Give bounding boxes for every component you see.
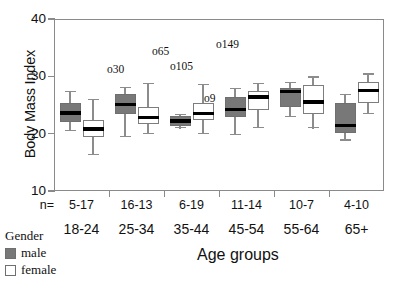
whisker-cap-upper [120, 87, 131, 88]
box-plot-male-65+ [335, 94, 356, 141]
legend-label-female: female [21, 262, 56, 278]
box-iqr [335, 103, 356, 133]
box-iqr [358, 82, 379, 103]
y-tick-label: 40 [12, 11, 46, 26]
n-value-25-34: 16-13 [107, 198, 167, 212]
box-plot-male-25-34 [115, 87, 136, 137]
category-label-55-64: 55-64 [272, 221, 332, 237]
whisker-cap-lower [88, 154, 99, 155]
box-plot-female-55-64 [303, 76, 324, 128]
whisker-cap-lower [230, 134, 241, 135]
category-label-18-24: 18-24 [52, 221, 112, 237]
category-label-35-44: 35-44 [162, 221, 222, 237]
whisker-cap-upper [253, 83, 264, 84]
median-line [83, 127, 104, 130]
y-tick-label: 20 [12, 126, 46, 141]
outlier-label-o149: o149 [216, 38, 239, 50]
whisker-cap-lower [308, 127, 319, 128]
median-line [115, 103, 136, 106]
y-tick-mark [48, 190, 55, 191]
whisker-cap-lower [65, 130, 76, 131]
median-line [60, 111, 81, 114]
y-tick-label: 10 [12, 183, 46, 198]
box-plot-female-25-34 [138, 83, 159, 134]
n-row-header: n= [4, 198, 54, 212]
outlier-label-o30: o30 [107, 63, 124, 75]
legend-swatch-male-icon [5, 248, 16, 259]
n-value-18-24: 5-17 [52, 198, 112, 212]
whisker-cap-lower [143, 133, 154, 134]
whisker-cap-upper [230, 88, 241, 89]
y-tick-mark [48, 18, 55, 19]
whisker-cap-lower [175, 127, 186, 128]
whisker-cap-upper [285, 82, 296, 83]
whisker-cap-upper [308, 76, 319, 77]
whisker-cap-upper [65, 91, 76, 92]
median-line [138, 116, 159, 119]
median-line [225, 108, 246, 111]
x-axis-title: Age groups [197, 246, 279, 264]
n-value-55-64: 10-7 [272, 198, 332, 212]
n-value-65+: 4-10 [327, 198, 387, 212]
outlier-label-o105: o105 [170, 60, 193, 72]
whisker-cap-lower [285, 116, 296, 117]
median-line [335, 124, 356, 127]
x-tick-mark [329, 191, 330, 197]
x-tick-mark [109, 191, 110, 197]
legend-swatch-female-icon [5, 265, 16, 276]
category-label-25-34: 25-34 [107, 221, 167, 237]
x-tick-mark [274, 191, 275, 197]
y-tick-mark [48, 133, 55, 134]
legend-item-male: male [5, 245, 56, 261]
whisker-cap-lower [198, 133, 209, 134]
box-iqr [248, 91, 269, 110]
whisker-cap-upper [198, 84, 209, 85]
whisker-cap-upper [340, 94, 351, 95]
whisker-cap-lower [340, 139, 351, 140]
legend-label-male: male [21, 245, 46, 261]
median-line [303, 100, 324, 103]
whisker-cap-upper [363, 73, 374, 74]
whisker-cap-upper [143, 83, 154, 84]
legend-title: Gender [5, 228, 56, 244]
boxplot-chart: Body Mass Index 10203040 o30o65o105o149o… [0, 0, 414, 291]
whisker-cap-lower [120, 136, 131, 137]
x-tick-mark [219, 191, 220, 197]
y-tick-mark [48, 76, 55, 77]
box-plot-male-55-64 [280, 82, 301, 117]
box-plot-female-65+ [358, 73, 379, 114]
y-axis-title: Body Mass Index [22, 14, 38, 194]
median-line [193, 112, 214, 115]
whisker-cap-lower [253, 127, 264, 128]
n-value-45-54: 11-14 [217, 198, 277, 212]
legend-item-female: female [5, 262, 56, 278]
outlier-label-o65: o65 [152, 45, 169, 57]
median-line [248, 95, 269, 98]
category-label-65+: 65+ [327, 221, 387, 237]
box-iqr [303, 85, 324, 114]
whisker-cap-lower [363, 113, 374, 114]
legend: Gender male female [5, 228, 56, 278]
n-value-35-44: 6-19 [162, 198, 222, 212]
box-plot-male-18-24 [60, 91, 81, 131]
median-line [280, 90, 301, 93]
box-plot-female-45-54 [248, 83, 269, 129]
median-line [170, 119, 191, 122]
y-tick-label: 30 [12, 68, 46, 83]
box-plot-male-35-44 [170, 114, 191, 128]
x-tick-mark [164, 191, 165, 197]
box-plot-female-18-24 [83, 99, 104, 155]
whisker-cap-upper [88, 99, 99, 100]
median-line [358, 89, 379, 92]
outlier-label-o9: o9 [204, 92, 216, 104]
category-label-45-54: 45-54 [217, 221, 277, 237]
box-plot-male-45-54 [225, 88, 246, 135]
